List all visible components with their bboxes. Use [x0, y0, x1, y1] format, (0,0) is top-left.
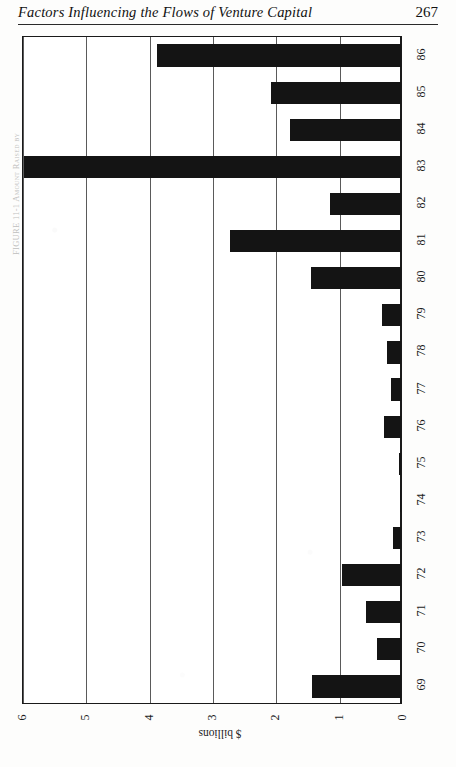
bar-72: [342, 564, 401, 586]
bar-chart-plot-area: [22, 36, 402, 704]
bar-75: [399, 453, 401, 475]
bar-83: [24, 156, 401, 178]
bar-85: [271, 82, 401, 104]
value-tick-5: 5: [78, 708, 93, 728]
bar-82: [330, 193, 401, 215]
bar-80: [311, 267, 401, 289]
bar-73: [393, 527, 401, 549]
bar-81: [230, 230, 401, 252]
value-tick-0: 0: [395, 708, 410, 728]
bar-69: [312, 675, 401, 697]
gridline-4: [150, 37, 151, 703]
value-tick-2: 2: [268, 708, 283, 728]
bar-78: [387, 341, 401, 363]
value-tick-6: 6: [15, 708, 30, 728]
bar-86: [157, 44, 401, 66]
value-tick-4: 4: [141, 708, 156, 728]
figure-notes-block: Note: IPOs by companies with net worths …: [414, 0, 456, 767]
value-tick-1: 1: [331, 708, 346, 728]
running-head: Factors Influencing the Flows of Venture…: [18, 4, 438, 26]
bar-71: [366, 601, 401, 623]
figure-caption: FIGURE 11-1 Amount Raised by: [11, 55, 21, 255]
value-tick-3: 3: [205, 708, 220, 728]
bar-79: [382, 304, 401, 326]
gridline-2: [276, 37, 277, 703]
gridline-6: [23, 37, 24, 703]
bar-76: [384, 416, 401, 438]
bar-74: [400, 490, 401, 512]
running-head-title: Factors Influencing the Flows of Venture…: [18, 4, 312, 21]
running-head-rule: [18, 24, 438, 25]
bar-84: [290, 119, 401, 141]
scanned-book-page: Factors Influencing the Flows of Venture…: [0, 0, 456, 767]
gridline-5: [86, 37, 87, 703]
gridline-3: [213, 37, 214, 703]
bar-77: [391, 378, 401, 400]
bar-70: [377, 638, 401, 660]
value-axis-title: $ billions: [150, 728, 290, 740]
